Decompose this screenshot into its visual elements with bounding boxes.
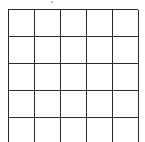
grid-cell[interactable] <box>9 37 35 64</box>
grid-cell[interactable] <box>35 118 61 142</box>
grid-cell[interactable] <box>9 118 35 142</box>
grid-cell[interactable] <box>61 10 87 37</box>
grid-cell[interactable] <box>61 91 87 118</box>
grid-cell[interactable] <box>87 118 113 142</box>
grid-cell[interactable] <box>35 91 61 118</box>
grid-cell[interactable] <box>87 37 113 64</box>
grid-cell[interactable] <box>9 91 35 118</box>
grid-cell[interactable] <box>113 10 139 37</box>
grid-cell[interactable] <box>87 64 113 91</box>
grid-cell[interactable] <box>9 10 35 37</box>
grid-cell[interactable] <box>113 64 139 91</box>
grid-cell[interactable] <box>35 10 61 37</box>
grid-cell[interactable] <box>61 118 87 142</box>
grid-cell[interactable] <box>113 118 139 142</box>
grid <box>8 9 138 142</box>
grid-cell[interactable] <box>87 91 113 118</box>
top-mark <box>51 1 53 3</box>
grid-cell[interactable] <box>61 37 87 64</box>
grid-cell[interactable] <box>35 64 61 91</box>
grid-cell[interactable] <box>35 37 61 64</box>
grid-cell[interactable] <box>113 37 139 64</box>
grid-cell[interactable] <box>9 64 35 91</box>
grid-cell[interactable] <box>61 64 87 91</box>
grid-cell[interactable] <box>87 10 113 37</box>
grid-cell[interactable] <box>113 91 139 118</box>
